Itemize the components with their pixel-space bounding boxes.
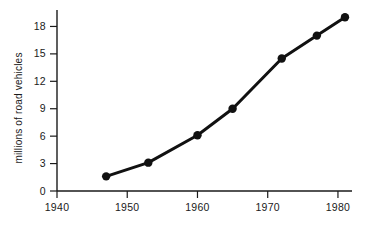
data-point-marker bbox=[228, 105, 236, 113]
data-point-marker bbox=[102, 172, 110, 180]
data-series bbox=[102, 13, 349, 180]
y-tick-label: 0 bbox=[40, 185, 46, 197]
y-tick-label: 18 bbox=[34, 20, 46, 32]
data-point-marker bbox=[193, 131, 201, 139]
y-axis-title-text: millions of road vehicles bbox=[13, 52, 24, 163]
x-tick-label: 1940 bbox=[45, 201, 70, 213]
series-line bbox=[106, 17, 345, 176]
x-tick-label: 1970 bbox=[255, 201, 280, 213]
y-tick-label: 12 bbox=[34, 75, 46, 87]
data-point-marker bbox=[144, 158, 152, 166]
line-chart: millions of road vehicles 0369121518 194… bbox=[0, 0, 365, 245]
y-tick-label: 6 bbox=[40, 130, 46, 142]
y-axis-ticks: 0369121518 bbox=[34, 20, 57, 197]
y-axis-label: millions of road vehicles bbox=[13, 52, 24, 163]
data-point-marker bbox=[313, 31, 321, 39]
x-tick-label: 1950 bbox=[115, 201, 140, 213]
chart-canvas: millions of road vehicles 0369121518 194… bbox=[0, 0, 365, 245]
y-tick-label: 3 bbox=[40, 157, 46, 169]
x-axis-ticks: 19401950196019701980 bbox=[45, 191, 351, 213]
y-tick-label: 9 bbox=[40, 102, 46, 114]
x-tick-label: 1960 bbox=[185, 201, 210, 213]
y-tick-label: 15 bbox=[34, 47, 46, 59]
data-point-marker bbox=[341, 13, 349, 21]
data-point-marker bbox=[278, 54, 286, 62]
x-tick-label: 1980 bbox=[326, 201, 351, 213]
